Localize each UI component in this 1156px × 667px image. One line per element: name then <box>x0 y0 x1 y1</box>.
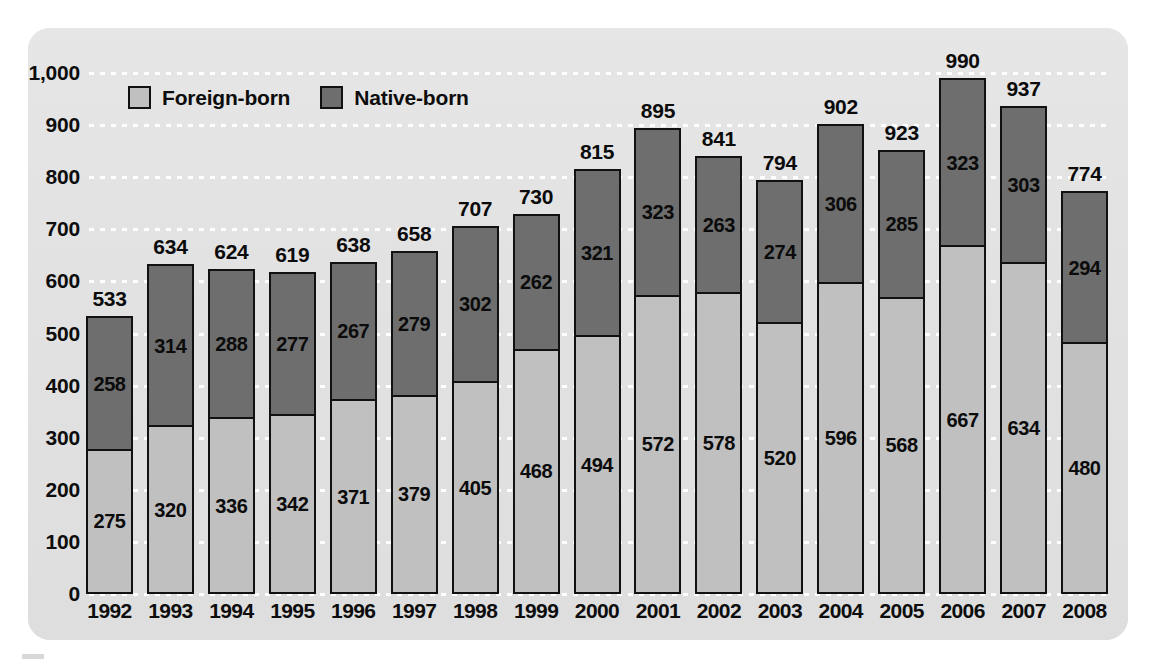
stacked-bar[interactable]: 303634 <box>1000 106 1047 594</box>
plot-area: 5332582756343143206242883366192773426382… <box>86 73 1108 594</box>
bar-segment-native-born[interactable]: 323 <box>636 130 679 297</box>
bar-segment-native-born[interactable]: 303 <box>1002 108 1045 265</box>
bar-segment-native-born[interactable]: 314 <box>149 266 192 428</box>
bar-segment-native-born[interactable]: 321 <box>576 171 619 337</box>
chart-page: 1,0009008007006005004003002001000 Foreig… <box>0 0 1156 667</box>
bar-column[interactable]: 774294480 <box>1061 73 1108 594</box>
bar-segment-value-native-born: 285 <box>886 214 918 234</box>
bar-total-label: 902 <box>824 96 858 117</box>
stacked-bar[interactable]: 263578 <box>695 156 742 594</box>
bar-column[interactable]: 619277342 <box>269 73 316 594</box>
bar-column[interactable]: 937303634 <box>1000 73 1047 594</box>
bar-total-label: 619 <box>275 244 309 265</box>
bar-column[interactable]: 841263578 <box>695 73 742 594</box>
bar-column[interactable]: 990323667 <box>939 73 986 594</box>
bar-column[interactable]: 815321494 <box>574 73 621 594</box>
bar-segment-value-foreign-born: 405 <box>459 478 491 498</box>
bar-segment-value-native-born: 303 <box>1007 175 1039 195</box>
bar-segment-foreign-born[interactable]: 342 <box>271 416 314 592</box>
bar-segment-value-foreign-born: 634 <box>1007 418 1039 438</box>
y-axis-tick-label: 300 <box>24 427 80 448</box>
x-axis-tick-label: 1992 <box>86 600 133 621</box>
bar-segment-foreign-born[interactable]: 275 <box>88 451 131 592</box>
bar-segment-foreign-born[interactable]: 379 <box>393 397 436 592</box>
y-axis-tick-label: 500 <box>24 323 80 344</box>
x-axis-tick-label: 1997 <box>391 600 438 621</box>
bar-segment-foreign-born[interactable]: 596 <box>819 284 862 592</box>
bar-column[interactable]: 707302405 <box>452 73 499 594</box>
bar-segment-native-born[interactable]: 294 <box>1063 193 1106 345</box>
bar-segment-value-foreign-born: 596 <box>825 428 857 448</box>
y-axis-tick-label: 800 <box>24 166 80 187</box>
bar-column[interactable]: 638267371 <box>330 73 377 594</box>
bar-segment-foreign-born[interactable]: 578 <box>697 294 740 592</box>
stacked-bar[interactable]: 288336 <box>208 269 255 594</box>
stacked-bar[interactable]: 314320 <box>147 264 194 594</box>
bar-segment-foreign-born[interactable]: 468 <box>515 351 558 592</box>
bar-segment-foreign-born[interactable]: 494 <box>576 337 619 592</box>
x-axis-tick-label: 1996 <box>330 600 377 621</box>
stacked-bar[interactable]: 302405 <box>452 226 499 594</box>
bar-total-label: 533 <box>92 288 126 309</box>
bar-column[interactable]: 634314320 <box>147 73 194 594</box>
bar-total-label: 658 <box>397 223 431 244</box>
bar-segment-native-born[interactable]: 306 <box>819 126 862 284</box>
bar-segment-foreign-born[interactable]: 336 <box>210 419 253 592</box>
stacked-bar[interactable]: 323667 <box>939 78 986 594</box>
bar-segment-native-born[interactable]: 285 <box>880 152 923 299</box>
stacked-bar[interactable]: 274520 <box>756 180 803 594</box>
stacked-bar[interactable]: 285568 <box>878 150 925 594</box>
bar-segment-foreign-born[interactable]: 520 <box>758 324 801 592</box>
bar-segment-foreign-born[interactable]: 572 <box>636 297 679 592</box>
stacked-bar[interactable]: 267371 <box>330 262 377 594</box>
x-axis-tick-label: 2000 <box>574 600 621 621</box>
stacked-bar[interactable]: 323572 <box>634 128 681 594</box>
bar-segment-foreign-born[interactable]: 634 <box>1002 264 1045 592</box>
bar-total-label: 937 <box>1006 78 1040 99</box>
stacked-bar[interactable]: 306596 <box>817 124 864 594</box>
bar-column[interactable]: 902306596 <box>817 73 864 594</box>
stacked-bar[interactable]: 321494 <box>574 169 621 594</box>
stacked-bar[interactable]: 279379 <box>391 251 438 594</box>
bar-segment-native-born[interactable]: 302 <box>454 228 497 384</box>
y-axis-tick-label: 200 <box>24 479 80 500</box>
bar-segment-native-born[interactable]: 288 <box>210 271 253 419</box>
bar-segment-native-born[interactable]: 262 <box>515 216 558 351</box>
y-axis-tick-label: 400 <box>24 375 80 396</box>
bar-segment-native-born[interactable]: 267 <box>332 264 375 401</box>
bar-segment-native-born[interactable]: 323 <box>941 80 984 247</box>
bar-column[interactable]: 533258275 <box>86 73 133 594</box>
stacked-bar[interactable]: 277342 <box>269 272 316 594</box>
bar-segment-native-born[interactable]: 277 <box>271 274 314 417</box>
bar-segment-foreign-born[interactable]: 568 <box>880 299 923 592</box>
bar-segment-value-native-born: 314 <box>154 336 186 356</box>
stacked-bar[interactable]: 294480 <box>1061 191 1108 594</box>
bar-segment-native-born[interactable]: 258 <box>88 318 131 451</box>
bar-column[interactable]: 730262468 <box>513 73 560 594</box>
bar-segment-foreign-born[interactable]: 667 <box>941 247 984 592</box>
bar-segment-value-foreign-born: 379 <box>398 484 430 504</box>
bar-segment-foreign-born[interactable]: 480 <box>1063 344 1106 592</box>
x-axis-tick-label: 2005 <box>878 600 925 621</box>
bar-segment-foreign-born[interactable]: 371 <box>332 401 375 592</box>
bar-segment-native-born[interactable]: 263 <box>697 158 740 294</box>
stacked-bar[interactable]: 262468 <box>513 214 560 594</box>
bar-column[interactable]: 794274520 <box>756 73 803 594</box>
y-axis: 1,0009008007006005004003002001000 <box>20 73 80 594</box>
bar-total-label: 990 <box>946 50 980 71</box>
bar-segment-value-foreign-born: 342 <box>276 494 308 514</box>
bar-column[interactable]: 895323572 <box>634 73 681 594</box>
bar-segment-foreign-born[interactable]: 320 <box>149 427 192 592</box>
x-axis-tick-label: 2003 <box>756 600 803 621</box>
stacked-bar[interactable]: 258275 <box>86 316 133 594</box>
bar-segment-foreign-born[interactable]: 405 <box>454 383 497 592</box>
bar-segment-native-born[interactable]: 274 <box>758 182 801 323</box>
bar-column[interactable]: 658279379 <box>391 73 438 594</box>
bar-total-label: 815 <box>580 141 614 162</box>
page-footer-mark <box>22 654 44 659</box>
bar-column[interactable]: 624288336 <box>208 73 255 594</box>
bar-segment-native-born[interactable]: 279 <box>393 253 436 397</box>
x-axis-tick-label: 2008 <box>1061 600 1108 621</box>
bar-column[interactable]: 923285568 <box>878 73 925 594</box>
y-axis-tick-label: 1,000 <box>24 62 80 83</box>
